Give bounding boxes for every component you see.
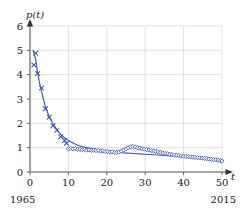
- y-tick-label: 0: [17, 167, 23, 178]
- population-decay-chart: 01020304050 0123456 p(t) t 1965 2015: [0, 0, 241, 210]
- y-axis-arrowhead: [27, 19, 33, 27]
- y-tick-label: 4: [17, 69, 23, 80]
- y-tick-label: 5: [17, 45, 23, 56]
- x-tick-label: 30: [139, 177, 152, 188]
- data-point-cross-marker: [31, 63, 36, 68]
- data-point-cross-marker: [54, 128, 59, 133]
- data-markers: [31, 51, 224, 163]
- y-tick-label: 1: [17, 142, 23, 153]
- x-tick-label: 40: [177, 177, 190, 188]
- chart-container: 01020304050 0123456 p(t) t 1965 2015: [0, 0, 241, 210]
- y-tick-label: 3: [17, 94, 23, 105]
- y-axis-tick-labels: 0123456: [17, 21, 23, 178]
- fitted-curve-path: [33, 50, 222, 160]
- x-axis-tick-labels: 01020304050: [27, 177, 229, 188]
- y-tick-label: 6: [17, 21, 23, 32]
- x-tick-label: 0: [27, 177, 33, 188]
- y-tick-label: 2: [17, 118, 23, 129]
- x-tick-label: 20: [100, 177, 113, 188]
- x-axis-start-year-annotation: 1965: [10, 194, 35, 205]
- axes: [27, 19, 233, 175]
- x-axis-label: t: [231, 171, 236, 182]
- x-tick-label: 10: [62, 177, 75, 188]
- fitted-curve: [33, 50, 222, 160]
- x-axis-end-year-annotation: 2015: [211, 194, 236, 205]
- x-tick-label: 50: [216, 177, 229, 188]
- y-axis-label: p(t): [26, 9, 44, 20]
